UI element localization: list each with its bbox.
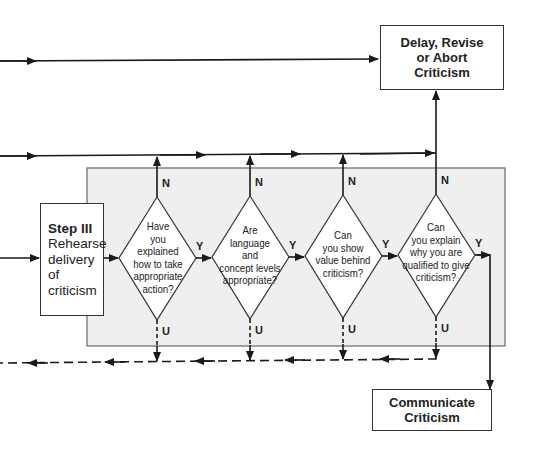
decision-4-line: qualified to give <box>397 259 474 272</box>
unsure-return-line <box>0 358 436 363</box>
decision-2-text: Are language and concept levels appropri… <box>213 224 287 287</box>
step-line-4: criticism <box>48 283 103 299</box>
decision-3-line: you show <box>308 242 378 255</box>
decision-4-line: criticism? <box>397 271 474 284</box>
communicate-criticism-box: Communicate Criticism <box>372 389 492 431</box>
decision-3-line: Can <box>308 229 378 242</box>
decision-4-line: you explain <box>397 234 474 247</box>
unsure-label-3: U <box>348 323 356 335</box>
decision-1-line: Have <box>125 220 192 233</box>
yes-label-3: Y <box>382 238 389 250</box>
no-label-4: N <box>441 174 449 186</box>
decision-3-line: value behind <box>308 254 378 267</box>
unsure-label-1: U <box>162 325 170 337</box>
delay-box-line-2: or Abort <box>417 50 468 65</box>
flow-line-no-path <box>0 91 436 156</box>
decision-4-line: why you are <box>397 246 474 259</box>
no-label-1: N <box>162 177 170 189</box>
flow-line-top <box>0 59 378 61</box>
yes-label-1: Y <box>196 240 203 252</box>
decision-1-line: appropriate <box>125 270 192 283</box>
decision-2-line: and <box>213 249 287 262</box>
decision-2-line: concept levels <box>213 262 287 275</box>
decision-1-text: Have you explained how to take appropria… <box>125 220 192 295</box>
yes-label-4: Y <box>475 237 482 249</box>
no-label-2: N <box>255 176 263 188</box>
communicate-line-1: Communicate <box>389 395 475 410</box>
delay-box-line-3: Criticism <box>414 65 470 80</box>
decision-3-text: Can you show value behind criticism? <box>308 229 378 279</box>
step-iii-box: Step III Rehearse delivery of criticism <box>40 203 104 316</box>
decision-2-line: appropriate? <box>213 274 287 287</box>
delay-revise-abort-box: Delay, Revise or Abort Criticism <box>380 25 504 90</box>
unsure-label-4: U <box>441 322 449 334</box>
no-label-3: N <box>348 175 356 187</box>
decision-1-line: action? <box>125 283 192 296</box>
step-line-1: Rehearse <box>48 236 103 252</box>
step-line-2: delivery <box>48 252 103 268</box>
decision-1-line: you <box>125 233 192 246</box>
decision-1-line: explained <box>125 245 192 258</box>
yes-label-2: Y <box>289 239 296 251</box>
decision-4-line: Can <box>397 221 474 234</box>
decision-4-text: Can you explain why you are qualified to… <box>397 221 474 284</box>
communicate-line-2: Criticism <box>404 410 460 425</box>
unsure-label-2: U <box>255 324 263 336</box>
decision-3-line: criticism? <box>308 267 378 280</box>
decision-2-line: Are <box>213 224 287 237</box>
step-title: Step III <box>48 221 103 237</box>
step-line-3: of <box>48 267 103 283</box>
decision-2-line: language <box>213 237 287 250</box>
decision-1-line: how to take <box>125 258 192 271</box>
delay-box-line-1: Delay, Revise <box>401 35 484 50</box>
